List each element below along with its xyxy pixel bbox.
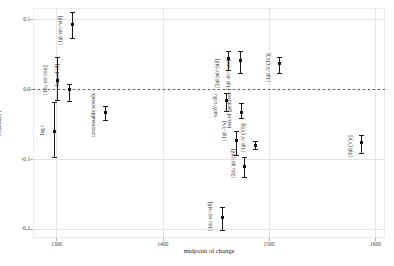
- y-tick-mark: [30, 229, 33, 230]
- data-point-label: [1du vit>við]: [207, 202, 214, 231]
- data-point-marker: [243, 165, 246, 168]
- error-bar-cap-top: [103, 106, 108, 107]
- error-bar-cap-bottom: [70, 38, 75, 39]
- error-bar-cap-top: [359, 135, 364, 136]
- error-bar-cap-top: [238, 51, 243, 52]
- error-bar: [240, 51, 241, 73]
- x-gridline: [375, 8, 376, 238]
- data-point-label: [1pl -ér>-um]: [225, 60, 232, 90]
- data-point-label: [1pl -V (IV)]: [265, 53, 272, 82]
- error-bar: [279, 57, 280, 73]
- data-point-label: 1sg r: [39, 125, 46, 136]
- error-bar-cap-top: [70, 12, 75, 13]
- error-bar-cap-bottom: [277, 73, 282, 74]
- data-point-marker: [53, 130, 56, 133]
- data-point-marker: [104, 111, 107, 114]
- error-bar-cap-bottom: [242, 177, 247, 178]
- data-point-marker: [221, 216, 224, 219]
- error-bar-cap-bottom: [253, 149, 258, 150]
- data-point-label: [1pl vér>við]: [57, 16, 64, 45]
- data-point-marker: [71, 23, 74, 26]
- data-point-marker: [360, 141, 363, 144]
- data-point-marker: [235, 139, 238, 142]
- x-gridline: [163, 8, 164, 238]
- data-point-marker: [254, 144, 257, 147]
- scatter-plot-figure: 13001400150016000.10.0-0.1-0.2[1pl vér>v…: [0, 0, 394, 266]
- error-bar: [69, 84, 70, 101]
- x-gridline: [269, 8, 270, 238]
- data-point-label: [1du vit>mit]: [42, 66, 49, 96]
- error-bar-cap-bottom: [55, 100, 60, 101]
- data-point-label: loss of [ð]: [54, 64, 61, 86]
- error-bar-cap-top: [239, 103, 244, 104]
- error-bar-cap-top: [234, 131, 239, 132]
- y-tick-label: -0.2: [12, 225, 30, 231]
- y-tick-label: 0.0: [12, 86, 30, 92]
- data-point-label: [2du þit>þið]: [230, 149, 237, 178]
- data-point-label: unstressable vowels: [90, 93, 97, 137]
- y-tick-label: -0.1: [12, 156, 30, 162]
- error-bar-cap-bottom: [52, 157, 57, 158]
- data-point-marker: [239, 59, 242, 62]
- error-bar-cap-top: [55, 57, 60, 58]
- data-point-marker: [278, 62, 281, 65]
- y-tick-mark: [30, 19, 33, 20]
- data-point-label: [3pl (V)r]: [347, 135, 354, 157]
- error-bar-cap-bottom: [220, 230, 225, 231]
- y-gridline: [33, 159, 385, 160]
- y-tick-mark: [30, 159, 33, 160]
- data-point-label: [2pl þér>þið]: [214, 59, 221, 88]
- data-point-marker: [68, 88, 71, 91]
- data-point-label: [1pl -V (VI)]: [240, 123, 247, 152]
- error-bar-cap-top: [277, 57, 282, 58]
- zero-reference-line: [33, 89, 385, 90]
- y-gridline: [33, 19, 385, 20]
- data-point-label: [1pl -Vs]: [221, 121, 228, 141]
- error-bar-cap-bottom: [103, 120, 108, 121]
- data-point-label: varð>urðu: [212, 94, 219, 117]
- error-bar-cap-top: [253, 141, 258, 142]
- data-point-marker: [240, 111, 243, 114]
- error-bar-cap-top: [242, 157, 247, 158]
- error-bar-cap-top: [52, 102, 57, 103]
- error-bar-cap-bottom: [67, 101, 72, 102]
- error-bar-cap-top: [67, 84, 72, 85]
- y-axis-title: Pearson's r: [0, 110, 3, 136]
- x-axis-title: midpoint of change: [33, 247, 385, 254]
- error-bar-cap-bottom: [238, 73, 243, 74]
- error-bar-cap-top: [220, 207, 225, 208]
- error-bar-cap-bottom: [239, 118, 244, 119]
- y-tick-label: 0.1: [12, 16, 30, 22]
- error-bar-cap-bottom: [359, 153, 364, 154]
- error-bar-cap-top: [226, 51, 231, 52]
